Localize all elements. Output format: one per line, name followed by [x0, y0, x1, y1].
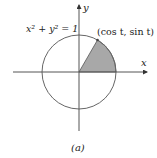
- shaded-sector: [79, 40, 116, 72]
- point-marker: [96, 39, 99, 42]
- point-label: (cos t, sin t): [97, 26, 154, 37]
- equation-label: x² + y² = 1: [26, 23, 78, 34]
- unit-circle-figure: y x x² + y² = 1 (cos t, sin t) (a): [0, 0, 157, 158]
- figure-caption: (a): [71, 142, 85, 153]
- y-axis-label: y: [82, 2, 89, 13]
- x-axis-label: x: [141, 57, 147, 68]
